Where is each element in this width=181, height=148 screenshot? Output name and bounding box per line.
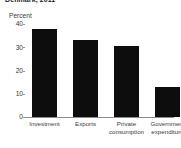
- x-axis-label-line: expenditure: [139, 128, 181, 136]
- y-tick-mark: [23, 117, 25, 118]
- y-tick-label: 40: [16, 20, 23, 27]
- x-axis-label: Governmentexpenditure: [139, 120, 181, 135]
- bar: [73, 40, 98, 117]
- y-tick-mark: [23, 24, 25, 25]
- y-tick-label: 10: [16, 90, 23, 97]
- plot-area: [26, 24, 174, 117]
- bar: [114, 46, 139, 117]
- y-tick-label: 20: [16, 67, 23, 74]
- bar: [155, 87, 180, 117]
- y-tick-mark: [23, 47, 25, 48]
- x-axis-line: [24, 117, 174, 118]
- x-axis-category-labels: InvestmentExportsPrivateconsumptionGover…: [20, 120, 181, 146]
- y-tick-label: 30: [16, 44, 23, 51]
- y-tick-mark: [23, 71, 25, 72]
- bar: [32, 29, 57, 117]
- x-axis-label-line: Government: [139, 120, 181, 128]
- chart-figure: Denmark, 2011 Percent 010203040 Investme…: [0, 0, 181, 148]
- y-tick-mark: [23, 94, 25, 95]
